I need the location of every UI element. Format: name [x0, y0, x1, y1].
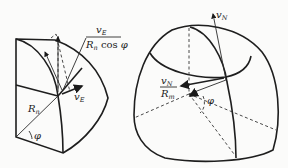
rm-denominator: Rm	[160, 88, 175, 101]
phi-arc	[29, 131, 32, 139]
right-ellipsoid-diagram	[134, 14, 278, 161]
radius-rm-line	[189, 80, 226, 94]
rn-label: Rn	[27, 103, 40, 116]
left-phi-label: φ	[34, 130, 41, 141]
vn-rm-arrow	[181, 78, 224, 86]
rn-cos-phi-denominator: Rn cos φ	[85, 39, 128, 52]
left-face-divider	[16, 85, 58, 96]
rotation-arrow	[45, 52, 62, 90]
ve-numerator: vE	[96, 24, 107, 37]
left-octant-diagram	[16, 34, 121, 153]
latitude-circle	[150, 53, 251, 78]
ellipsoid-outline	[134, 25, 278, 161]
right-phi-label: φ	[207, 95, 214, 106]
vn-top-label: vN	[216, 9, 228, 22]
ve-label: vE	[74, 91, 85, 104]
vn-numerator: vN	[161, 75, 173, 88]
